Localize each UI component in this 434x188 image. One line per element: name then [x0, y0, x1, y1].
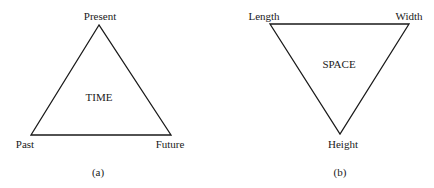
length-label: Length [248, 10, 279, 22]
time-triangle [31, 25, 171, 135]
height-label: Height [328, 138, 358, 150]
caption-b: (b) [334, 166, 347, 178]
future-label: Future [156, 138, 185, 150]
diagram-canvas [0, 0, 434, 188]
caption-a: (a) [92, 166, 104, 178]
time-label: TIME [86, 91, 113, 103]
width-label: Width [395, 10, 422, 22]
present-label: Present [84, 10, 116, 22]
space-triangle [270, 24, 409, 134]
space-label: SPACE [322, 58, 355, 70]
past-label: Past [16, 138, 34, 150]
